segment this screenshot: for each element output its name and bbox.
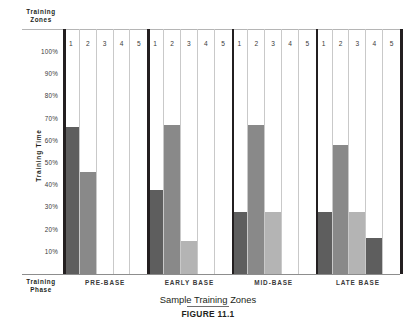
phase-label: EARLY BASE bbox=[147, 279, 231, 286]
y-tick-label: 10% bbox=[22, 248, 58, 255]
y-tick-label: 30% bbox=[22, 203, 58, 210]
zone-number-label: 4 bbox=[282, 40, 298, 47]
training-phase-header: Training Phase bbox=[22, 278, 60, 294]
y-tick-label: 40% bbox=[22, 181, 58, 188]
phase-label: MID-BASE bbox=[232, 279, 316, 286]
bar bbox=[181, 241, 197, 274]
bar bbox=[366, 238, 382, 274]
zone-column: 3 bbox=[181, 29, 198, 274]
bar-group: 12345 bbox=[63, 29, 147, 274]
zone-column: 1 bbox=[232, 29, 249, 274]
y-tick-label: 50% bbox=[22, 159, 58, 166]
group-separator bbox=[316, 29, 319, 274]
training-zones-header: Training Zones bbox=[22, 8, 60, 24]
zone-number-label: 2 bbox=[164, 40, 180, 47]
zone-number-label: 5 bbox=[383, 40, 400, 47]
bar-group: 12345 bbox=[147, 29, 231, 274]
zone-column: 4 bbox=[282, 29, 299, 274]
bar bbox=[349, 212, 365, 274]
zone-column: 5 bbox=[299, 29, 316, 274]
y-tick-label: 20% bbox=[22, 226, 58, 233]
bar bbox=[80, 172, 96, 274]
y-tick-label: 90% bbox=[22, 70, 58, 77]
zone-number-label: 5 bbox=[130, 40, 147, 47]
zone-column: 3 bbox=[97, 29, 114, 274]
training-zones-header-line2: Zones bbox=[30, 16, 52, 23]
group-separator bbox=[232, 29, 235, 274]
zone-number-label: 5 bbox=[299, 40, 316, 47]
bar bbox=[333, 145, 349, 274]
figure-sample-training-zones: Training Zones Training Phase Training T… bbox=[0, 0, 416, 328]
zone-number-label: 2 bbox=[333, 40, 349, 47]
phase-label: PRE-BASE bbox=[63, 279, 147, 286]
zone-column: 4 bbox=[198, 29, 215, 274]
y-tick-label: 80% bbox=[22, 92, 58, 99]
zone-number-label: 2 bbox=[248, 40, 264, 47]
zone-number-label: 3 bbox=[349, 40, 365, 47]
training-phase-header-line1: Training bbox=[26, 278, 55, 285]
bar-group: 12345 bbox=[316, 29, 400, 274]
zone-number-label: 4 bbox=[366, 40, 382, 47]
zone-column: 4 bbox=[114, 29, 131, 274]
zone-number-label: 5 bbox=[215, 40, 232, 47]
zone-number-label: 3 bbox=[97, 40, 113, 47]
phase-label: LATE BASE bbox=[316, 279, 400, 286]
bar bbox=[265, 212, 281, 274]
zone-number-label: 3 bbox=[181, 40, 197, 47]
y-tick-label: 100% bbox=[22, 48, 58, 55]
zone-number-label: 2 bbox=[80, 40, 96, 47]
y-tick-label: 70% bbox=[22, 115, 58, 122]
baseline-rule bbox=[22, 274, 400, 275]
zone-column: 5 bbox=[130, 29, 147, 274]
zone-column: 1 bbox=[147, 29, 164, 274]
bar-group: 12345 bbox=[232, 29, 316, 274]
bar bbox=[248, 125, 264, 274]
training-phase-header-line2: Phase bbox=[30, 286, 52, 293]
zone-column: 2 bbox=[333, 29, 350, 274]
chart-title: Sample Training Zones bbox=[0, 294, 416, 305]
zone-column: 1 bbox=[316, 29, 333, 274]
zone-column: 2 bbox=[248, 29, 265, 274]
zone-number-label: 4 bbox=[198, 40, 214, 47]
zone-column: 3 bbox=[265, 29, 282, 274]
zone-column: 5 bbox=[215, 29, 232, 274]
caption-divider bbox=[187, 306, 229, 307]
zone-number-label: 4 bbox=[114, 40, 130, 47]
bar bbox=[164, 125, 180, 274]
y-tick-label: 60% bbox=[22, 137, 58, 144]
training-zones-header-line1: Training bbox=[26, 8, 55, 15]
group-separator-end bbox=[400, 29, 403, 274]
group-separator bbox=[147, 29, 150, 274]
zone-column: 5 bbox=[383, 29, 400, 274]
group-separator bbox=[63, 29, 66, 274]
zone-column: 3 bbox=[349, 29, 366, 274]
zone-column: 1 bbox=[63, 29, 80, 274]
zone-number-label: 3 bbox=[265, 40, 281, 47]
zone-column: 2 bbox=[80, 29, 97, 274]
figure-number: FIGURE 11.1 bbox=[0, 309, 416, 319]
zone-column: 4 bbox=[366, 29, 383, 274]
zone-column: 2 bbox=[164, 29, 181, 274]
